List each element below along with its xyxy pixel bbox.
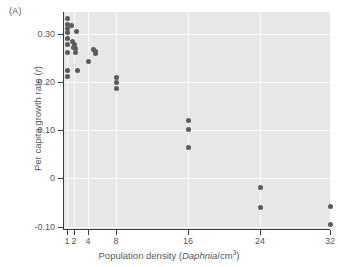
gridline-horizontal [64,82,330,83]
y-axis-line [63,12,64,230]
data-point [65,74,70,79]
x-tick-label: 32 [325,236,335,246]
data-point [93,51,98,56]
x-tick-label: 8 [113,236,118,246]
x-axis-title-genus: Daphnia [182,250,217,261]
x-axis-line [63,229,330,230]
data-point [69,23,74,28]
x-axis-title: Population density (Daphnia/cm3) [0,249,338,261]
y-tick [58,82,63,83]
data-point [328,222,333,227]
y-tick [58,130,63,131]
gridline-vertical [88,12,89,229]
gridline-horizontal [64,227,330,228]
data-point [65,42,70,47]
x-tick [260,230,261,235]
x-tick-label: 1 [64,236,69,246]
y-tick-label: 0 [50,173,55,183]
gridline-vertical [260,12,261,229]
x-tick [67,230,68,235]
gridline-vertical [330,12,331,229]
data-point [186,127,191,132]
data-point [114,80,119,85]
y-tick [58,178,63,179]
data-point [75,68,80,73]
data-point [258,185,263,190]
x-tick [74,230,75,235]
data-point [86,59,91,64]
x-tick [88,230,89,235]
x-tick-label: 4 [85,236,90,246]
x-tick [330,230,331,235]
data-point [65,30,70,35]
data-point [258,205,263,210]
panel-label: (A) [9,6,22,16]
data-point [186,118,191,123]
y-axis-title-symbol: r [32,69,43,72]
x-tick-label: 16 [183,236,193,246]
figure-panel-a: (A) -0.1000.100.200.30 1248162432 Popula… [0,0,338,267]
data-point [328,204,333,209]
gridline-horizontal [64,178,330,179]
gridline-horizontal [64,34,330,35]
y-tick [58,227,63,228]
data-point [65,50,70,55]
data-point [65,36,70,41]
y-axis-title: Per capita growth rate (r) [32,19,43,219]
data-point [65,16,70,21]
x-tick [116,230,117,235]
x-axis-title-exponent: 3 [233,249,237,256]
data-point [65,68,70,73]
data-point [73,50,78,55]
gridline-horizontal [64,130,330,131]
y-tick-label: -0.10 [34,222,55,232]
y-tick [58,34,63,35]
x-tick-label: 2 [71,236,76,246]
gridline-vertical [116,12,117,229]
x-tick [188,230,189,235]
data-point [114,86,119,91]
x-tick-label: 24 [255,236,265,246]
plot-area [64,12,330,229]
data-point [186,145,191,150]
